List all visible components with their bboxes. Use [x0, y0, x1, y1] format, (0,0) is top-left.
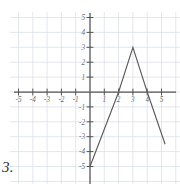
x-tick-label: -2	[58, 96, 64, 104]
y-tick-label: -4	[79, 148, 85, 156]
y-tick-label: -2	[79, 119, 85, 127]
y-tick-label: 2	[81, 59, 85, 67]
x-tick-label: -4	[30, 96, 36, 104]
y-axis-tick-labels: 5 4 3 2 1 -1 -2 -3 -4 -5	[79, 14, 85, 171]
y-tick-label: 5	[81, 14, 85, 22]
x-tick-label: 1	[103, 96, 107, 104]
y-tick-label: -3	[79, 133, 85, 141]
x-tick-label: 5	[160, 96, 164, 104]
x-tick-label: -3	[44, 96, 50, 104]
x-tick-label: -5	[16, 96, 22, 104]
x-tick-label: -1	[73, 96, 79, 104]
y-tick-label: 4	[81, 29, 85, 37]
y-tick-label: -5	[79, 163, 85, 171]
x-tick-label: 3	[130, 96, 135, 104]
coordinate-plane-graph: -5 -4 -3 -2 -1 1 2 3 4 5 5 4 3 2 1 -1 -2…	[0, 0, 180, 184]
y-tick-label: -1	[79, 104, 85, 112]
problem-number-label: 3.	[2, 160, 14, 175]
grid-vertical-lines	[19, 12, 176, 184]
y-tick-label: 1	[81, 74, 85, 82]
graph-figure: -5 -4 -3 -2 -1 1 2 3 4 5 5 4 3 2 1 -1 -2…	[0, 0, 180, 184]
y-tick-label: 3	[80, 44, 85, 52]
x-tick-label: 2	[117, 96, 121, 104]
